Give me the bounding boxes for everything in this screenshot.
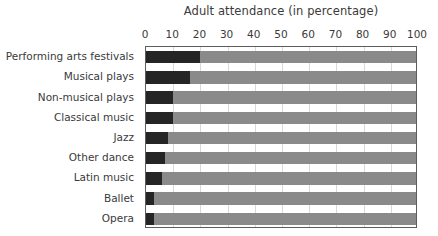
y-axis: Performing arts festivalsMusical playsNo… bbox=[0, 46, 140, 228]
bar-value bbox=[146, 192, 154, 205]
bar-value bbox=[146, 152, 165, 165]
bar-row bbox=[146, 192, 416, 205]
chart-title: Adult attendance (in percentage) bbox=[145, 4, 417, 18]
x-tick-label-40: 40 bbox=[247, 28, 260, 40]
x-tick-label-0: 0 bbox=[142, 28, 149, 40]
x-axis: 0102030405060708090100 bbox=[145, 28, 417, 43]
bar-row bbox=[146, 213, 416, 226]
y-tick-label: Opera bbox=[102, 212, 134, 224]
bar-value bbox=[146, 213, 154, 226]
x-tick-label-10: 10 bbox=[166, 28, 179, 40]
bar-track bbox=[146, 192, 416, 205]
bar-row bbox=[146, 71, 416, 84]
bar-value bbox=[146, 51, 200, 64]
bar-value bbox=[146, 172, 162, 185]
bar-value bbox=[146, 71, 190, 84]
y-tick-label: Latin music bbox=[74, 171, 134, 183]
y-tick-label: Musical plays bbox=[64, 70, 134, 82]
bar-row bbox=[146, 51, 416, 64]
bar-track bbox=[146, 152, 416, 165]
bar-value bbox=[146, 91, 173, 104]
bar-rows bbox=[146, 47, 416, 227]
bar-row bbox=[146, 91, 416, 104]
y-tick-label: Jazz bbox=[113, 131, 134, 143]
bar-track bbox=[146, 91, 416, 104]
plot-area bbox=[145, 46, 417, 228]
bar-track bbox=[146, 112, 416, 125]
x-tick-label-90: 90 bbox=[383, 28, 396, 40]
y-tick-label: Other dance bbox=[69, 151, 134, 163]
bar-row bbox=[146, 132, 416, 145]
bar-chart: Adult attendance (in percentage) 0102030… bbox=[0, 0, 438, 236]
bar-row bbox=[146, 152, 416, 165]
bar-value bbox=[146, 132, 168, 145]
y-tick-label: Classical music bbox=[54, 111, 134, 123]
x-tick-label-30: 30 bbox=[220, 28, 233, 40]
bar-value bbox=[146, 112, 173, 125]
y-tick-label: Non-musical plays bbox=[38, 91, 134, 103]
bar-row bbox=[146, 172, 416, 185]
y-tick-label: Ballet bbox=[104, 192, 134, 204]
bar-track bbox=[146, 213, 416, 226]
bar-track bbox=[146, 172, 416, 185]
x-tick-label-20: 20 bbox=[193, 28, 206, 40]
x-tick-label-60: 60 bbox=[302, 28, 315, 40]
y-tick-label: Performing arts festivals bbox=[6, 50, 134, 62]
bar-row bbox=[146, 112, 416, 125]
x-tick-label-50: 50 bbox=[274, 28, 287, 40]
bar-track bbox=[146, 132, 416, 145]
x-tick-label-100: 100 bbox=[407, 28, 427, 40]
x-tick-label-70: 70 bbox=[329, 28, 342, 40]
x-tick-label-80: 80 bbox=[356, 28, 369, 40]
